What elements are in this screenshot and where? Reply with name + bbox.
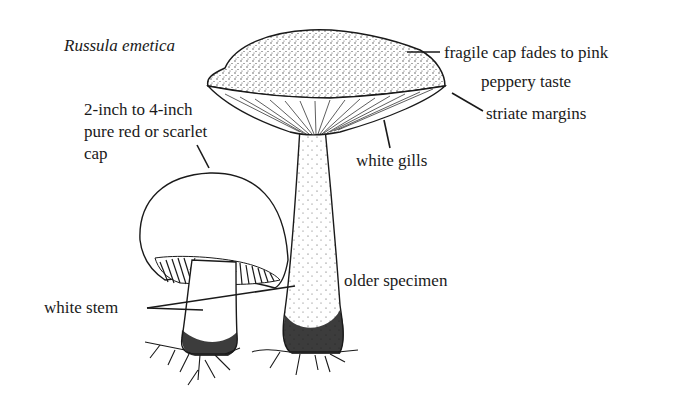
older-cap [208, 30, 445, 135]
species-title: Russula emetica [64, 35, 175, 56]
white-gills-label: white gills [356, 150, 427, 171]
white-stem-label: white stem [44, 297, 118, 318]
young-stem [182, 260, 238, 356]
cap-size-label-line-3: cap [84, 143, 108, 164]
cap-size-label-line-1: 2-inch to 4-inch [84, 99, 193, 120]
older-stem [283, 128, 344, 354]
peppery-taste-label: peppery taste [481, 71, 571, 92]
cap-size-label-line-2: pure red or scarlet [84, 121, 207, 142]
striate-margins-label: striate margins [486, 103, 586, 124]
fragile-cap-label: fragile cap fades to pink [444, 42, 608, 63]
mushroom-illustration: Russula emetica 2-inch to 4-inch pure re… [0, 0, 697, 418]
older-specimen-label: older specimen [344, 270, 447, 291]
